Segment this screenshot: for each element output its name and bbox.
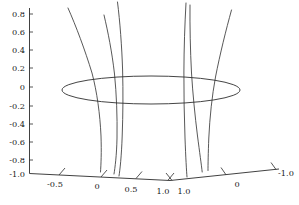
x-tick-label: 0.5: [124, 184, 137, 194]
plot-figure: 0.8 0.6 0.4 0.2 0 -0.2 -0.4 -0.6 -0.8 -1…: [0, 0, 299, 205]
x-tick-label: -0.5: [47, 179, 63, 189]
y-tick-label: 0.4: [12, 45, 25, 55]
field-line-curve-4: [184, 3, 187, 177]
field-lines-group: [68, 2, 232, 177]
y-tick-label: 0.2: [12, 63, 25, 73]
tick-mark: [136, 172, 142, 179]
axes-group: [30, 8, 280, 181]
tick-labels-group: 0.8 0.6 0.4 0.2 0 -0.2 -0.4 -0.6 -0.8 -1…: [9, 9, 294, 196]
y-tick-label: -0.4: [9, 119, 25, 129]
tick-mark: [101, 170, 107, 177]
y-tick-label: 0.8: [12, 9, 25, 19]
field-line-curve-5: [190, 5, 202, 172]
field-line-curve-3: [118, 2, 123, 176]
y-tick-label: 0: [20, 82, 25, 92]
plot-canvas: 0.8 0.6 0.4 0.2 0 -0.2 -0.4 -0.6 -0.8 -1…: [0, 0, 299, 205]
tick-mark: [271, 163, 276, 170]
tick-mark: [221, 168, 226, 175]
tick-mark: [59, 168, 65, 175]
y-tick-label: -0.6: [9, 137, 25, 147]
bottom-left-axis-ticks: [59, 168, 174, 180]
vertical-axis-ticks: [30, 14, 34, 160]
x-tick-label: 0: [94, 181, 99, 191]
y-tick-label: 0.6: [12, 27, 25, 37]
y-tick-label: -0.8: [9, 155, 25, 165]
y-tick-label: -1.0: [9, 169, 25, 179]
x-tick-label: 1.0: [156, 186, 169, 196]
z-tick-label: 0: [234, 179, 239, 189]
y-tick-label: -0.2: [9, 101, 25, 111]
field-line-curve-2: [104, 15, 117, 174]
field-line-curve-6: [208, 10, 232, 171]
field-line-curve-1: [68, 8, 101, 172]
z-tick-label: -1.0: [278, 168, 294, 178]
z-tick-label: 1.0: [177, 186, 190, 196]
